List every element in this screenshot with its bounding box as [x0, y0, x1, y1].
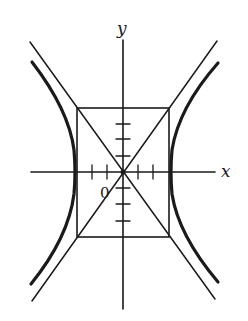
origin-point	[121, 170, 126, 175]
x-axis-label: x	[221, 161, 231, 181]
y-axis-label: y	[116, 18, 127, 38]
origin-label: 0	[100, 184, 110, 202]
hyperbola-diagram: y x 0	[0, 0, 248, 321]
